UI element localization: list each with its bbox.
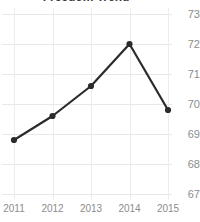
- y-tick-label: 67: [178, 189, 200, 200]
- data-series-layer: [0, 0, 200, 222]
- y-tick-label: 69: [178, 129, 200, 140]
- y-tick-label: 73: [178, 9, 200, 20]
- x-tick-label: 2012: [33, 203, 73, 214]
- x-tick-label: 2014: [110, 203, 150, 214]
- data-point-marker: [11, 137, 17, 143]
- y-tick-label: 68: [178, 159, 200, 170]
- plot-area: [14, 14, 168, 194]
- x-tick-label: 2015: [148, 203, 188, 214]
- line-chart: Freedom Trend 73727170696867 20112012201…: [0, 0, 200, 222]
- x-tick-label: 2013: [71, 203, 111, 214]
- data-point-marker: [49, 113, 55, 119]
- series-line-freedom-trend: [14, 44, 168, 140]
- y-tick-label: 71: [178, 69, 200, 80]
- data-point-marker: [126, 41, 132, 47]
- x-tick-label: 2011: [0, 203, 34, 214]
- data-point-marker: [165, 107, 171, 113]
- y-tick-label: 72: [178, 39, 200, 50]
- data-point-marker: [88, 83, 94, 89]
- y-tick-label: 70: [178, 99, 200, 110]
